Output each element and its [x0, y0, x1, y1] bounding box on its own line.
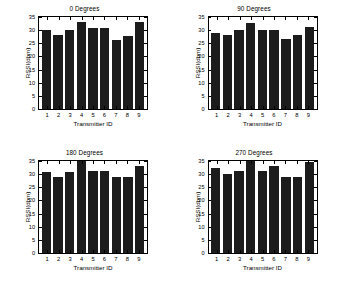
y-axis-tick [144, 109, 147, 110]
y-axis-tick [144, 200, 147, 201]
y-axis-title: RSSI(dbm) [24, 48, 31, 79]
y-axis-tick-label: 25 [29, 184, 35, 190]
chart-panel-270-degrees: 270 Degrees Transmitter ID RSSI(dbm) 051… [170, 144, 339, 288]
x-axis-tick [139, 250, 140, 253]
y-axis-tick [39, 83, 42, 84]
x-axis-tick-label: 9 [307, 112, 310, 118]
plot-area: Transmitter ID RSSI(dbm) 051015202530351… [208, 16, 318, 110]
y-axis-tick [39, 161, 42, 162]
bar [53, 35, 62, 109]
y-axis-tick-label: 10 [198, 224, 204, 230]
x-axis-tick [82, 17, 83, 20]
bar [305, 27, 314, 109]
x-axis-tick-label: 1 [46, 256, 49, 262]
bar-series [39, 17, 147, 109]
x-axis-tick-label: 2 [227, 256, 230, 262]
y-axis-tick-label: 35 [29, 158, 35, 164]
y-axis-tick-label: 30 [198, 27, 204, 33]
y-axis-tick [314, 17, 317, 18]
y-axis-tick [209, 17, 212, 18]
x-axis-tick [82, 250, 83, 253]
y-axis-tick-label: 20 [29, 53, 35, 59]
x-axis-tick [297, 106, 298, 109]
bar [77, 22, 86, 109]
x-axis-tick-label: 5 [261, 112, 264, 118]
x-axis-tick [285, 161, 286, 164]
x-axis-tick [228, 106, 229, 109]
bar [42, 172, 51, 253]
y-axis-tick-label: 10 [29, 80, 35, 86]
y-axis-tick [144, 161, 147, 162]
y-axis-tick [39, 30, 42, 31]
bar [42, 30, 51, 109]
x-axis-tick [274, 17, 275, 20]
y-axis-tick [39, 17, 42, 18]
chart-panel-180-degrees: 180 Degrees Transmitter ID RSSI(dbm) 051… [0, 144, 169, 288]
x-axis-tick-label: 4 [80, 256, 83, 262]
x-axis-tick [217, 17, 218, 20]
x-axis-tick-label: 9 [137, 256, 140, 262]
x-axis-tick [274, 161, 275, 164]
x-axis-tick [127, 250, 128, 253]
x-axis-tick [70, 161, 71, 164]
x-axis-tick [139, 161, 140, 164]
y-axis-tick-label: 35 [198, 14, 204, 20]
x-axis-tick [47, 250, 48, 253]
bar-series [209, 17, 317, 109]
bar [88, 28, 97, 109]
x-axis-tick [104, 250, 105, 253]
y-axis-tick [209, 109, 212, 110]
y-axis-tick-label: 0 [32, 250, 35, 256]
y-axis-tick [144, 227, 147, 228]
x-axis-tick [285, 106, 286, 109]
x-axis-tick [263, 17, 264, 20]
y-axis-tick-label: 5 [201, 237, 204, 243]
y-axis-tick [39, 70, 42, 71]
y-axis-tick-label: 5 [32, 93, 35, 99]
bar [223, 35, 232, 109]
x-axis-tick [116, 161, 117, 164]
x-axis-tick [285, 250, 286, 253]
x-axis-tick [285, 17, 286, 20]
x-axis-tick [93, 106, 94, 109]
x-axis-tick [116, 106, 117, 109]
x-axis-tick-label: 5 [91, 256, 94, 262]
x-axis-tick [104, 106, 105, 109]
y-axis-title: RSSI(dbm) [24, 192, 31, 223]
x-axis-tick-label: 6 [272, 112, 275, 118]
y-axis-tick [144, 174, 147, 175]
y-axis-tick [209, 70, 212, 71]
y-axis-tick [144, 43, 147, 44]
x-axis-tick-label: 3 [238, 112, 241, 118]
x-axis-tick [104, 161, 105, 164]
bar [305, 162, 314, 253]
x-axis-tick [251, 17, 252, 20]
y-axis-tick-label: 25 [198, 184, 204, 190]
bar [269, 166, 278, 253]
y-axis-tick [144, 240, 147, 241]
x-axis-tick [127, 106, 128, 109]
y-axis-tick [314, 214, 317, 215]
figure-bar-chart-grid: 0 Degrees Transmitter ID RSSI(dbm) 05101… [0, 0, 339, 288]
bar [53, 177, 62, 253]
x-axis-tick [59, 17, 60, 20]
x-axis-title: Transmitter ID [39, 264, 147, 271]
y-axis-tick [39, 109, 42, 110]
x-axis-tick [217, 161, 218, 164]
y-axis-tick-label: 35 [29, 14, 35, 20]
x-axis-tick [228, 161, 229, 164]
x-axis-tick [308, 250, 309, 253]
y-axis-tick [314, 161, 317, 162]
x-axis-tick-label: 7 [284, 256, 287, 262]
bar [258, 171, 267, 253]
x-axis-tick-label: 3 [238, 256, 241, 262]
y-axis-tick-label: 10 [198, 80, 204, 86]
y-axis-tick-label: 25 [198, 40, 204, 46]
y-axis-tick [144, 83, 147, 84]
y-axis-tick [314, 187, 317, 188]
bar [88, 171, 97, 253]
x-axis-tick [240, 250, 241, 253]
x-axis-tick-label: 6 [103, 256, 106, 262]
x-axis-tick [251, 250, 252, 253]
bar [65, 30, 74, 109]
